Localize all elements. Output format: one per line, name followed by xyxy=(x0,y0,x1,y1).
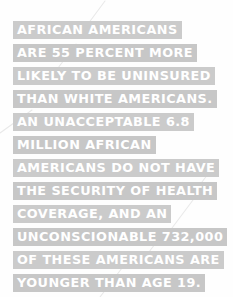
quote-line: AMERICANS DO NOT HAVE xyxy=(13,159,219,177)
quote-line: AN UNACCEPTABLE 6.8 xyxy=(13,113,194,131)
quote-line: THAN WHITE AMERICANS. xyxy=(13,90,217,108)
quote-line: YOUNGER THAN AGE 19. xyxy=(13,274,205,292)
quote-line: THE SECURITY OF HEALTH xyxy=(13,182,217,200)
quote-text-block: AFRICAN AMERICANS ARE 55 PERCENT MORE LI… xyxy=(13,21,228,292)
quote-line: ARE 55 PERCENT MORE xyxy=(13,44,197,62)
quote-line: AFRICAN AMERICANS xyxy=(13,21,182,39)
quote-line: OF THESE AMERICANS ARE xyxy=(13,251,224,269)
quote-line: LIKELY TO BE UNINSURED xyxy=(13,67,215,85)
quote-graphic-canvas: AFRICAN AMERICANS ARE 55 PERCENT MORE LI… xyxy=(0,0,233,297)
quote-line: MILLION AFRICAN xyxy=(13,136,156,154)
quote-line: UNCONSCIONABLE 732,000 xyxy=(13,228,227,246)
quote-line: COVERAGE, AND AN xyxy=(13,205,171,223)
